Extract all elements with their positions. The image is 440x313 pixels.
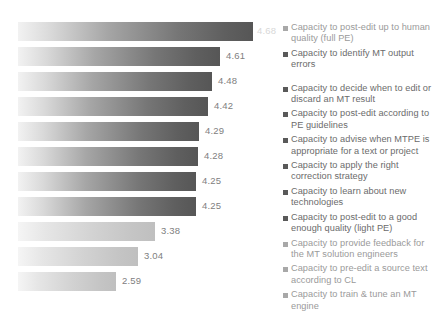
bar-value-label: 3.04 bbox=[144, 250, 163, 261]
chart-plot-area: 4.684.614.484.424.294.284.254.253.383.04… bbox=[18, 22, 280, 298]
bar bbox=[18, 272, 116, 291]
bar-row: 2.59 bbox=[18, 272, 280, 291]
square-marker-icon bbox=[283, 242, 288, 247]
bar-value-label: 2.59 bbox=[122, 275, 141, 286]
bar-value-label: 3.38 bbox=[161, 225, 180, 236]
bar bbox=[18, 147, 198, 166]
square-marker-icon bbox=[283, 164, 288, 169]
legend-item-label: Capacity to post-edit according to PE gu… bbox=[291, 108, 438, 131]
square-marker-icon bbox=[283, 190, 288, 195]
legend-item[interactable]: Capacity to provide feedback for the MT … bbox=[283, 238, 438, 261]
square-marker-icon bbox=[283, 26, 288, 31]
legend-item-label: Capacity to apply the right correction s… bbox=[291, 160, 438, 183]
bar bbox=[18, 172, 196, 191]
legend-item[interactable]: Capacity to apply the right correction s… bbox=[283, 160, 438, 183]
bar-row: 4.68 bbox=[18, 22, 280, 41]
bar-row: 4.42 bbox=[18, 97, 280, 116]
legend-item[interactable]: Capacity to pre-edit a source text accor… bbox=[283, 263, 438, 286]
bar bbox=[18, 197, 196, 216]
square-marker-icon bbox=[283, 216, 288, 221]
bar bbox=[18, 47, 220, 66]
bar-row: 4.48 bbox=[18, 72, 280, 91]
bar-row: 4.29 bbox=[18, 122, 280, 141]
bar-row: 3.04 bbox=[18, 247, 280, 266]
bar-value-label: 4.28 bbox=[204, 150, 223, 161]
bar-row: 4.28 bbox=[18, 147, 280, 166]
legend-item-label: Capacity to decide when to edit or disca… bbox=[291, 83, 438, 106]
legend-item-label: Capacity to post-edit up to human qualit… bbox=[291, 22, 438, 45]
bar-value-label: 4.42 bbox=[214, 100, 233, 111]
square-marker-icon bbox=[283, 293, 288, 298]
legend-item-label: Capacity to train & tune an MT engine bbox=[291, 289, 438, 312]
legend-item-label: Capacity to pre-edit a source text accor… bbox=[291, 263, 438, 286]
bar-row: 4.61 bbox=[18, 47, 280, 66]
legend-item[interactable]: Capacity to identify MT output errors bbox=[283, 48, 438, 71]
legend-item-label: Capacity to learn about new technologies bbox=[291, 186, 438, 209]
bar-row: 4.25 bbox=[18, 197, 280, 216]
legend-item-label: Capacity to provide feedback for the MT … bbox=[291, 238, 438, 261]
bar bbox=[18, 22, 253, 41]
legend-item[interactable]: Capacity to post-edit to a good enough q… bbox=[283, 212, 438, 235]
bar bbox=[18, 122, 199, 141]
bar-value-label: 4.48 bbox=[218, 75, 237, 86]
bar-row: 3.38 bbox=[18, 222, 280, 241]
legend-item[interactable]: Capacity to post-edit according to PE gu… bbox=[283, 108, 438, 131]
square-marker-icon bbox=[283, 112, 288, 117]
bar-value-label: 4.25 bbox=[202, 175, 221, 186]
legend-item[interactable]: Capacity to post-edit up to human qualit… bbox=[283, 22, 438, 45]
square-marker-icon bbox=[283, 52, 288, 57]
bar bbox=[18, 72, 212, 91]
bar-value-label: 4.25 bbox=[202, 200, 221, 211]
legend-item[interactable]: Capacity to learn about new technologies bbox=[283, 186, 438, 209]
legend-item-label: Capacity to advise when MTPE is appropri… bbox=[291, 134, 438, 157]
bar-value-label: 4.68 bbox=[257, 25, 276, 36]
bar-chart: 4.684.614.484.424.294.284.254.253.383.04… bbox=[0, 0, 440, 313]
chart-legend: Capacity to post-edit up to human qualit… bbox=[283, 22, 438, 312]
square-marker-icon bbox=[283, 138, 288, 143]
bar-value-label: 4.29 bbox=[205, 125, 224, 136]
square-marker-icon bbox=[283, 87, 288, 92]
legend-item[interactable]: Capacity to advise when MTPE is appropri… bbox=[283, 134, 438, 157]
legend-item[interactable]: Capacity to decide when to edit or disca… bbox=[283, 83, 438, 106]
legend-item[interactable]: Capacity to train & tune an MT engine bbox=[283, 289, 438, 312]
legend-item-label: Capacity to identify MT output errors bbox=[291, 48, 438, 71]
bar bbox=[18, 97, 208, 116]
legend-item-label: Capacity to post-edit to a good enough q… bbox=[291, 212, 438, 235]
bar-value-label: 4.61 bbox=[226, 50, 245, 61]
square-marker-icon bbox=[283, 267, 288, 272]
bar-row: 4.25 bbox=[18, 172, 280, 191]
bar bbox=[18, 222, 155, 241]
bar bbox=[18, 247, 138, 266]
